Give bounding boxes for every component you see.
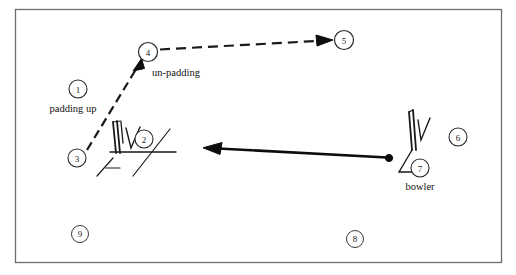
marker-9[interactable]: 9: [72, 226, 89, 243]
marker-8[interactable]: 8: [347, 231, 364, 248]
caption-un-padding: un-padding: [152, 67, 201, 78]
marker-4[interactable]: 4: [139, 43, 158, 62]
diagram-canvas: 1 2 3 4 5 6: [0, 0, 516, 275]
marker-5[interactable]: 5: [335, 31, 354, 50]
marker-8-label: 8: [353, 234, 358, 244]
marker-5-label: 5: [342, 36, 347, 46]
marker-6-label: 6: [456, 133, 461, 143]
marker-4-label: 4: [146, 48, 151, 58]
marker-3[interactable]: 3: [68, 149, 86, 167]
marker-6[interactable]: 6: [449, 128, 467, 146]
marker-7[interactable]: 7: [411, 159, 429, 177]
cricket-sequence-diagram: 1 2 3 4 5 6: [0, 0, 516, 275]
marker-7-label: 7: [418, 164, 423, 174]
marker-2-label: 2: [142, 135, 147, 145]
marker-9-label: 9: [78, 229, 83, 239]
marker-2[interactable]: 2: [135, 130, 153, 148]
marker-3-label: 3: [75, 154, 80, 164]
diagram-frame: [16, 10, 502, 263]
marker-1-label: 1: [76, 85, 81, 95]
marker-1[interactable]: 1: [69, 80, 87, 98]
caption-padding-up: padding up: [50, 103, 97, 114]
caption-bowler: bowler: [405, 181, 435, 192]
